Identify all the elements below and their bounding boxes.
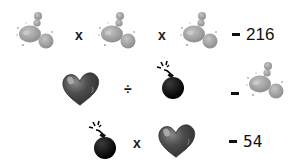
splat-icon	[14, 8, 58, 52]
row-3: x 54	[0, 110, 302, 166]
equals-sign	[232, 33, 240, 36]
splat-icon	[96, 8, 140, 52]
splat-icon	[178, 8, 222, 52]
multiply-operator: x	[75, 28, 83, 42]
heart-icon	[157, 122, 197, 160]
result-54: 54	[229, 134, 262, 150]
heart-icon	[61, 70, 101, 108]
multiply-operator: x	[158, 28, 166, 42]
divide-operator: ÷	[124, 82, 132, 96]
row-1: x x 216	[0, 0, 302, 56]
splat-icon	[244, 58, 288, 102]
result-216: 216	[232, 26, 274, 43]
bomb-icon	[88, 120, 118, 160]
equals-sign	[229, 140, 237, 143]
multiply-operator: x	[133, 136, 141, 150]
equals-sign	[231, 85, 245, 102]
bomb-icon	[156, 60, 186, 100]
row-2: ÷	[0, 56, 302, 112]
